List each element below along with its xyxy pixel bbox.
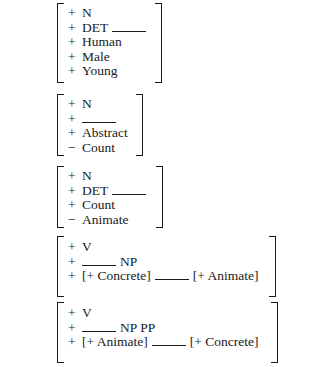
blank-slot bbox=[112, 21, 146, 32]
feature-matrix: +V +NP +[+ Concrete][+ Animate] bbox=[57, 236, 276, 297]
feature-text: Human bbox=[82, 34, 122, 49]
feature-row: +NP bbox=[68, 255, 258, 270]
feature-text: DET bbox=[82, 183, 108, 198]
feature-sign: + bbox=[68, 126, 82, 141]
feature-sign: + bbox=[68, 64, 82, 79]
feature-sign: + bbox=[68, 240, 82, 255]
feature-text: N bbox=[82, 96, 92, 111]
feature-sign: + bbox=[68, 306, 82, 321]
right-bracket bbox=[155, 3, 162, 83]
feature-sign: + bbox=[68, 50, 82, 65]
blank-slot bbox=[82, 255, 116, 266]
feature-text: Count bbox=[82, 140, 115, 155]
blank-slot bbox=[82, 112, 116, 123]
feature-row: −Count bbox=[68, 141, 128, 156]
feature-sign: + bbox=[68, 97, 82, 112]
blank-slot bbox=[82, 321, 116, 332]
right-bracket bbox=[136, 94, 143, 156]
feature-row: + bbox=[68, 112, 128, 127]
feature-text: V bbox=[82, 305, 92, 320]
feature-context-right: [+ Concrete] bbox=[190, 334, 259, 349]
feature-matrix: +N + +Abstract −Count bbox=[57, 94, 143, 156]
feature-sign: + bbox=[68, 269, 82, 284]
feature-text: N bbox=[82, 5, 92, 20]
feature-matrix: +V +NP PP +[+ Animate][+ Concrete] bbox=[57, 302, 278, 363]
feature-sign: + bbox=[68, 321, 82, 336]
feature-text: N bbox=[82, 168, 92, 183]
feature-sign: + bbox=[68, 35, 82, 50]
feature-row: +NP PP bbox=[68, 321, 258, 336]
feature-context-left: [+ Animate] bbox=[82, 334, 148, 349]
feature-row: +V bbox=[68, 306, 258, 321]
feature-row: +DET bbox=[68, 184, 146, 199]
feature-text: DET bbox=[82, 20, 108, 35]
feature-text: Young bbox=[82, 63, 117, 78]
right-bracket bbox=[269, 236, 276, 297]
left-bracket bbox=[57, 236, 64, 297]
feature-sign: − bbox=[68, 141, 82, 156]
feature-row: +N bbox=[68, 6, 146, 21]
feature-sign: + bbox=[68, 21, 82, 36]
feature-text: Count bbox=[82, 197, 115, 212]
feature-row: −Animate bbox=[68, 213, 146, 228]
feature-sign: + bbox=[68, 335, 82, 350]
feature-text: Animate bbox=[82, 212, 129, 227]
feature-matrix: +N +DET +Count −Animate bbox=[57, 166, 163, 228]
feature-row: +V bbox=[68, 240, 258, 255]
feature-sign: + bbox=[68, 184, 82, 199]
left-bracket bbox=[57, 94, 64, 156]
blank-slot bbox=[152, 335, 186, 346]
feature-row: +[+ Concrete][+ Animate] bbox=[68, 269, 258, 284]
feature-sign: + bbox=[68, 169, 82, 184]
left-bracket bbox=[57, 302, 64, 363]
feature-sign: + bbox=[68, 6, 82, 21]
feature-row: +Male bbox=[68, 50, 146, 65]
feature-row: +Young bbox=[68, 64, 146, 79]
blank-slot bbox=[155, 269, 189, 280]
feature-row: +Count bbox=[68, 198, 146, 213]
feature-row: +Human bbox=[68, 35, 146, 50]
feature-row: +N bbox=[68, 169, 146, 184]
feature-sign: − bbox=[68, 213, 82, 228]
feature-row: +DET bbox=[68, 21, 146, 36]
feature-matrix: +N +DET +Human +Male +Young bbox=[57, 3, 162, 83]
left-bracket bbox=[57, 166, 64, 228]
left-bracket bbox=[57, 3, 64, 83]
feature-row: +[+ Animate][+ Concrete] bbox=[68, 335, 258, 350]
feature-row: +Abstract bbox=[68, 126, 128, 141]
feature-sign: + bbox=[68, 198, 82, 213]
right-bracket bbox=[156, 166, 163, 228]
feature-text: NP PP bbox=[120, 320, 155, 335]
feature-sign: + bbox=[68, 255, 82, 270]
feature-text: Male bbox=[82, 49, 110, 64]
feature-context-left: [+ Concrete] bbox=[82, 268, 151, 283]
feature-context-right: [+ Animate] bbox=[193, 268, 259, 283]
feature-row: +N bbox=[68, 97, 128, 112]
feature-text: Abstract bbox=[82, 125, 128, 140]
right-bracket bbox=[271, 302, 278, 363]
blank-slot bbox=[112, 184, 146, 195]
feature-sign: + bbox=[68, 112, 82, 127]
feature-text: NP bbox=[120, 254, 137, 269]
feature-text: V bbox=[82, 239, 92, 254]
